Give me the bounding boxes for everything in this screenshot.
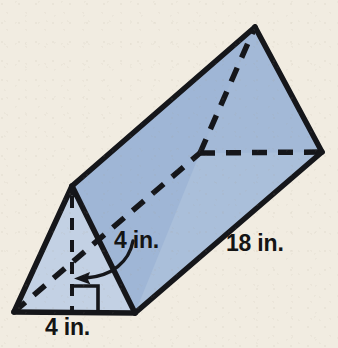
- label-length-18in: 18 in.: [226, 230, 284, 257]
- label-height-4in: 4 in.: [114, 227, 159, 254]
- prism-drawing: [0, 0, 338, 348]
- edge-front-base: [14, 312, 135, 313]
- label-base-4in: 4 in.: [45, 314, 90, 341]
- triangular-prism-figure: 4 in. 18 in. 4 in.: [0, 0, 338, 348]
